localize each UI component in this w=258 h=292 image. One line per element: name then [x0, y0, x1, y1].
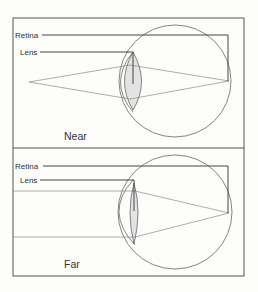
- label-retina-far: Retina: [15, 162, 39, 171]
- panel-near: Retina Lens Near: [15, 25, 231, 142]
- label-lens-far: Lens: [20, 176, 37, 185]
- caption-far: Far: [64, 258, 80, 270]
- caption-near: Near: [64, 130, 87, 142]
- panel-far: Retina Lens Far: [13, 155, 232, 270]
- ray-far-bottom: [13, 213, 229, 237]
- label-lens-near: Lens: [20, 48, 37, 57]
- label-retina-near: Retina: [15, 31, 39, 40]
- lens-leader-far: [40, 180, 134, 211]
- eye-accommodation-diagram: Retina Lens Near Retina Lens Far: [0, 0, 258, 292]
